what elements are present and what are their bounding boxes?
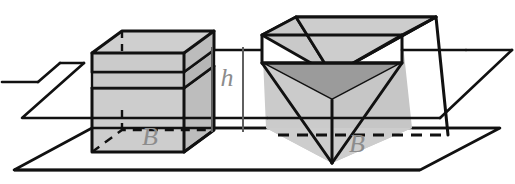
lower-plane-icon xyxy=(14,128,500,170)
lower-plane-surface xyxy=(14,128,500,170)
rect-prism-slab-front xyxy=(92,72,184,88)
height-label: h xyxy=(221,63,234,92)
figure-canvas: h B B xyxy=(0,0,515,184)
base-label-left: B xyxy=(142,122,158,151)
rect-prism-upper-front xyxy=(92,53,184,72)
geometry-figure: h B B xyxy=(0,0,515,184)
base-label-right: B xyxy=(349,129,365,158)
